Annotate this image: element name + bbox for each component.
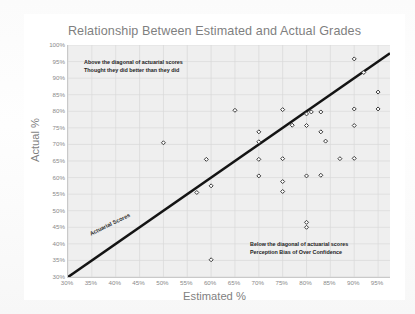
above-diagonal-annotation: Above the diagonal of actuarial scores T… <box>84 59 183 75</box>
data-point-marker <box>281 157 285 161</box>
data-point-marker <box>376 90 380 94</box>
y-tick-label: 60% <box>53 175 65 181</box>
y-tick-label: 45% <box>53 224 65 230</box>
x-tick-label: 65% <box>228 280 240 286</box>
y-tick-label: 75% <box>53 125 65 131</box>
x-tick-label: 50% <box>156 280 168 286</box>
y-tick-label: 35% <box>53 257 65 263</box>
y-tick-label: 80% <box>53 108 65 114</box>
above-diagonal-annotation-line2: Thought they did better than they did <box>84 67 183 75</box>
y-tick-label: 85% <box>53 92 65 98</box>
y-tick-label: 65% <box>53 158 65 164</box>
below-diagonal-annotation-line1: Below the diagonal of actuarial scores <box>250 241 348 249</box>
data-point-marker <box>338 157 342 161</box>
y-tick-label: 100% <box>49 42 65 48</box>
data-point-marker <box>319 130 323 134</box>
x-tick-label: 75% <box>275 280 287 286</box>
x-tick-label: 55% <box>180 280 192 286</box>
data-point-marker <box>281 189 285 193</box>
data-point-marker <box>324 139 328 143</box>
x-tick-label: 40% <box>109 280 121 286</box>
above-diagonal-annotation-line1: Above the diagonal of actuarial scores <box>84 59 183 67</box>
data-point-marker <box>319 110 323 114</box>
data-point-marker <box>209 184 213 188</box>
below-diagonal-annotation-line2: Perception Bias of Over Confidence <box>250 249 348 257</box>
data-point-marker <box>319 173 323 177</box>
data-point-marker <box>209 258 213 262</box>
x-tick-label: 80% <box>299 280 311 286</box>
data-point-marker <box>352 156 356 160</box>
x-tick-label: 70% <box>252 280 264 286</box>
data-point-marker <box>376 107 380 111</box>
x-tick-label: 90% <box>347 280 359 286</box>
y-axis-title: Actual % <box>29 75 41 205</box>
x-tick-label: 60% <box>204 280 216 286</box>
data-point-marker <box>352 124 356 128</box>
data-point-marker <box>233 108 237 112</box>
data-point-marker <box>352 107 356 111</box>
chart-title: Relationship Between Estimated and Actua… <box>24 24 405 38</box>
chart-container: Relationship Between Estimated and Actua… <box>24 14 405 300</box>
y-tick-label: 70% <box>53 141 65 147</box>
data-point-marker <box>305 124 309 128</box>
screenshot-root: Relationship Between Estimated and Actua… <box>0 0 415 314</box>
x-axis-title: Estimated % <box>24 290 405 302</box>
y-tick-label: 90% <box>53 75 65 81</box>
data-point-marker <box>281 180 285 184</box>
y-tick-label: 40% <box>53 241 65 247</box>
y-tick-label: 50% <box>53 208 65 214</box>
data-point-marker <box>305 225 309 229</box>
x-tick-label: 95% <box>371 280 383 286</box>
data-point-marker <box>309 110 313 114</box>
data-point-marker <box>257 130 261 134</box>
x-tick-label: 85% <box>323 280 335 286</box>
x-tick-label: 45% <box>132 280 144 286</box>
plot-area: Above the diagonal of actuarial scores T… <box>67 45 390 278</box>
x-tick-label: 35% <box>85 280 97 286</box>
below-diagonal-annotation: Below the diagonal of actuarial scores P… <box>250 241 348 257</box>
data-point-marker <box>305 220 309 224</box>
y-tick-label: 95% <box>53 59 65 65</box>
y-tick-label: 55% <box>53 191 65 197</box>
x-tick-label: 30% <box>61 280 73 286</box>
data-point-marker <box>290 123 294 127</box>
data-point-marker <box>352 57 356 61</box>
